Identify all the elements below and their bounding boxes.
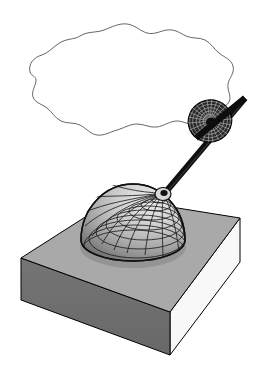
dome-pole-socket-group (155, 188, 171, 201)
dome-pole-hole (160, 190, 167, 196)
disc-hub (206, 117, 216, 126)
illustration-canvas (0, 0, 257, 387)
figure-root (0, 0, 257, 387)
